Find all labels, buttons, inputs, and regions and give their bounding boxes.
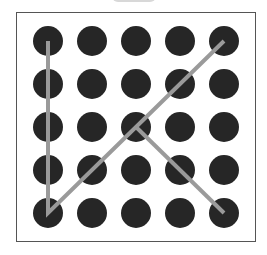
pattern-dot-r0-c2[interactable] <box>121 26 151 56</box>
pattern-dot-r3-c4[interactable] <box>209 155 239 185</box>
pattern-dot-r1-c2[interactable] <box>121 69 151 99</box>
pattern-dot-r1-c4[interactable] <box>209 69 239 99</box>
pattern-dot-r4-c2[interactable] <box>121 198 151 228</box>
pattern-dot-r4-c3[interactable] <box>165 198 195 228</box>
pattern-dot-r3-c2[interactable] <box>121 155 151 185</box>
pattern-dot-r0-c3[interactable] <box>165 26 195 56</box>
pattern-dot-r0-c1[interactable] <box>77 26 107 56</box>
pattern-dot-r2-c4[interactable] <box>209 112 239 142</box>
pattern-dot-r2-c1[interactable] <box>77 112 107 142</box>
pattern-dot-r4-c1[interactable] <box>77 198 107 228</box>
pattern-dot-r2-c3[interactable] <box>165 112 195 142</box>
pattern-dot-r1-c1[interactable] <box>77 69 107 99</box>
pattern-lock-grid[interactable] <box>0 0 267 255</box>
